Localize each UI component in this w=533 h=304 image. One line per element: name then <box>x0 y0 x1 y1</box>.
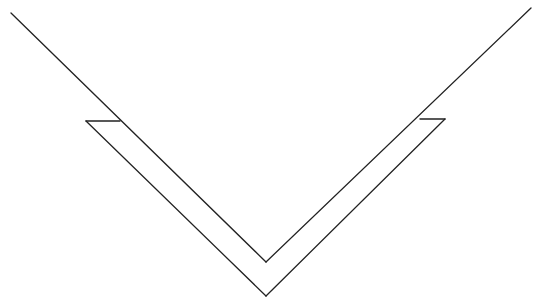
inner-right-line <box>266 8 531 262</box>
inner-left-line <box>11 13 266 262</box>
outer-left-line <box>86 121 266 296</box>
outer-right-line <box>266 119 445 296</box>
chevron-diagram <box>0 0 533 304</box>
